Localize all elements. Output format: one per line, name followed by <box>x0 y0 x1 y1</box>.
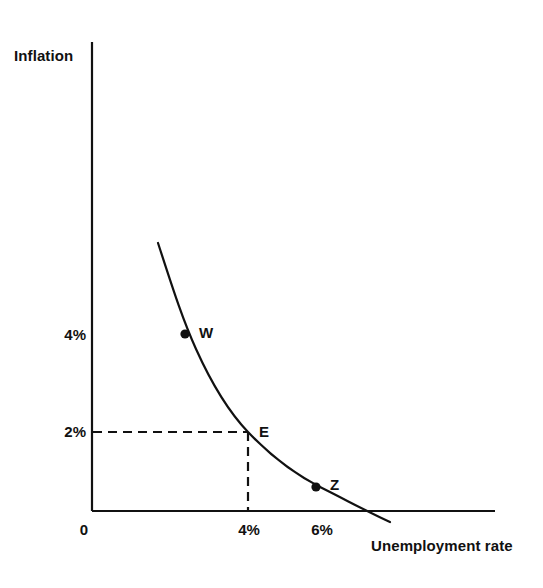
y-tick-label-4-percent: 4% <box>26 327 86 342</box>
y-axis-title: Inflation <box>14 48 73 63</box>
data-point-w-marker <box>180 329 189 338</box>
x-tick-label-6-percent: 6% <box>302 522 342 537</box>
chart-canvas <box>0 0 543 588</box>
data-point-label-z: Z <box>330 477 339 492</box>
x-tick-label-zero: 0 <box>64 522 104 537</box>
data-point-label-e: E <box>259 424 269 439</box>
x-tick-label-4-percent: 4% <box>229 522 269 537</box>
data-point-z-marker <box>311 482 320 491</box>
phillips-curve-line <box>158 243 390 522</box>
phillips-curve-figure: Inflation Unemployment rate 4% 2% 0 4% 6… <box>0 0 543 588</box>
data-point-label-w: W <box>199 325 213 340</box>
y-tick-label-2-percent: 2% <box>26 424 86 439</box>
x-axis-title: Unemployment rate <box>371 538 513 553</box>
